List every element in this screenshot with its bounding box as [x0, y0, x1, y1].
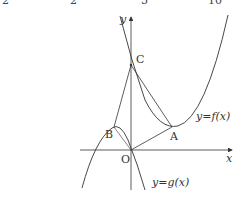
curve-g-label: y=g(x): [152, 177, 189, 188]
point-A-label: A: [170, 131, 178, 142]
point-C-label: C: [136, 54, 144, 65]
curve-g: [82, 127, 145, 191]
origin-label: O: [121, 154, 130, 165]
y-axis-label: y: [120, 14, 126, 25]
curve-f-label: y=f(x): [196, 111, 230, 122]
segment-OA: [131, 127, 172, 150]
point-B-label: B: [105, 129, 113, 140]
x-axis-label: x: [226, 153, 232, 164]
graph: [0, 0, 237, 197]
diagram: 2 2 5 10 y x O C B A y=f(x) y=g(x): [0, 0, 237, 197]
segment-CA: [131, 65, 172, 127]
segment-CB: [114, 65, 131, 127]
